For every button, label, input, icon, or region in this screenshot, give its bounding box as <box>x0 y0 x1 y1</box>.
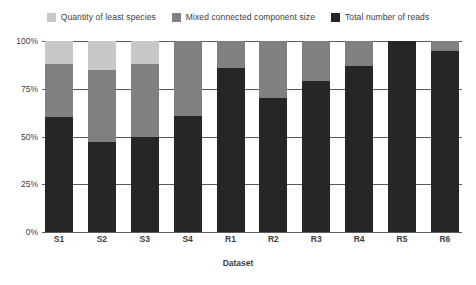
x-axis-tick-label: R6 <box>431 234 459 244</box>
bar-r2[interactable] <box>259 41 287 232</box>
x-axis-tick-label: R2 <box>259 234 287 244</box>
legend-label: Quantity of least species <box>61 12 156 22</box>
x-axis-title: Dataset <box>0 258 476 268</box>
bar-segment <box>45 41 73 64</box>
bar-segment <box>259 41 287 98</box>
legend-swatch-icon <box>172 13 181 22</box>
x-axis: S1S2S3S4R1R2R3R4R5R6 <box>42 234 462 244</box>
bar-segment <box>302 41 330 81</box>
x-axis-tick-label: R5 <box>388 234 416 244</box>
legend-label: Mixed connected component size <box>186 12 315 22</box>
x-axis-tick-label: R3 <box>302 234 330 244</box>
bar-segment <box>217 68 245 232</box>
bar-segment <box>259 98 287 232</box>
chart-legend: Quantity of least speciesMixed connected… <box>0 12 476 22</box>
bar-segment <box>131 64 159 137</box>
legend-item[interactable]: Total number of reads <box>331 12 429 22</box>
bar-r4[interactable] <box>345 41 373 232</box>
legend-swatch-icon <box>331 13 340 22</box>
bar-s4[interactable] <box>174 41 202 232</box>
legend-label: Total number of reads <box>345 12 429 22</box>
bar-r5[interactable] <box>388 41 416 232</box>
x-axis-tick-label: S4 <box>174 234 202 244</box>
bar-segment <box>88 70 116 143</box>
y-axis-tick-label: 100% <box>4 36 38 46</box>
bar-segment <box>174 41 202 115</box>
bar-s3[interactable] <box>131 41 159 232</box>
x-axis-tick-label: S2 <box>88 234 116 244</box>
bar-segment <box>174 116 202 233</box>
legend-item[interactable]: Quantity of least species <box>47 12 156 22</box>
legend-swatch-icon <box>47 13 56 22</box>
bar-segment <box>45 117 73 232</box>
bar-segment <box>345 41 373 66</box>
bar-segment <box>388 41 416 232</box>
gridline <box>42 232 462 233</box>
bar-segment <box>88 142 116 232</box>
bar-group <box>42 41 462 232</box>
y-axis-tick-label: 25% <box>4 179 38 189</box>
x-axis-tick-label: R4 <box>345 234 373 244</box>
bar-r3[interactable] <box>302 41 330 232</box>
x-axis-tick-label: S3 <box>131 234 159 244</box>
bar-r1[interactable] <box>217 41 245 232</box>
y-axis: 0%25%50%75%100% <box>0 41 38 232</box>
bar-segment <box>217 41 245 68</box>
bar-s1[interactable] <box>45 41 73 232</box>
x-axis-tick-label: S1 <box>45 234 73 244</box>
bar-segment <box>131 41 159 64</box>
y-axis-tick-label: 75% <box>4 84 38 94</box>
y-axis-tick-label: 50% <box>4 132 38 142</box>
bar-segment <box>431 51 459 232</box>
bar-segment <box>88 41 116 70</box>
bar-s2[interactable] <box>88 41 116 232</box>
y-axis-tick-label: 0% <box>4 227 38 237</box>
bar-segment <box>431 41 459 51</box>
x-axis-tick-label: R1 <box>217 234 245 244</box>
bar-segment <box>302 81 330 232</box>
bar-segment <box>345 66 373 232</box>
plot-area <box>42 41 462 232</box>
bar-segment <box>131 137 159 233</box>
bar-r6[interactable] <box>431 41 459 232</box>
bar-segment <box>45 64 73 117</box>
legend-item[interactable]: Mixed connected component size <box>172 12 315 22</box>
